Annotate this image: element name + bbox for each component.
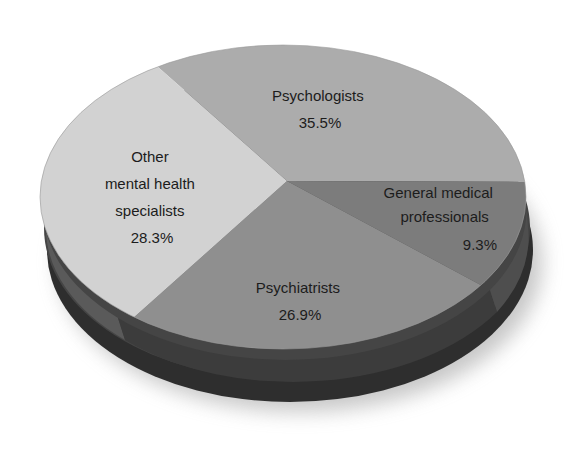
pie-chart: Psychologists 35.5% General medical prof… [0,0,565,463]
